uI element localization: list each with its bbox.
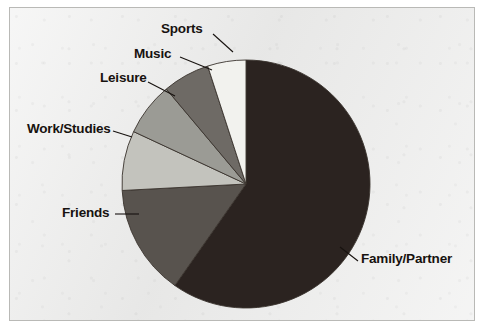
pie-slice-group (122, 60, 370, 308)
chart-page: Sports Music Leisure Work/Studies Friend… (0, 0, 488, 332)
pie-label-music: Music (134, 47, 171, 61)
pie-label-friends: Friends (62, 206, 109, 220)
pie-label-leisure: Leisure (100, 71, 147, 85)
leader-line-work-studies (113, 131, 132, 137)
pie-label-family-partner: Family/Partner (361, 252, 452, 266)
leader-line-music (180, 57, 212, 70)
pie-label-work-studies: Work/Studies (27, 122, 111, 136)
pie-label-sports: Sports (161, 22, 203, 36)
pie-chart (0, 0, 488, 332)
leader-line-sports (213, 34, 233, 52)
